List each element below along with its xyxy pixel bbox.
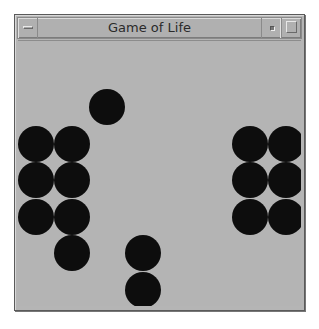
live-cell[interactable] [54,162,90,198]
maximize-button[interactable] [281,18,301,38]
live-cell[interactable] [268,199,301,235]
live-cell[interactable] [18,199,54,235]
live-cell[interactable] [89,89,125,125]
window-title: Game of Life [38,18,261,38]
life-board[interactable] [18,40,301,306]
live-cell[interactable] [18,126,54,162]
live-cell[interactable] [268,126,301,162]
title-bar[interactable]: Game of Life [17,17,302,39]
live-cell[interactable] [232,199,268,235]
live-cell[interactable] [54,199,90,235]
maximize-icon [286,21,297,33]
live-cell[interactable] [54,126,90,162]
minimize-icon [270,26,275,31]
live-cell[interactable] [125,235,161,271]
window-menu-icon [23,26,33,29]
live-cell[interactable] [18,162,54,198]
window-menu-button[interactable] [18,18,38,38]
live-cell[interactable] [232,162,268,198]
live-cell[interactable] [125,272,161,306]
minimize-button[interactable] [261,18,281,38]
live-cell[interactable] [54,235,90,271]
game-of-life-window: Game of Life [14,14,305,311]
live-cell[interactable] [268,162,301,198]
live-cell[interactable] [232,126,268,162]
